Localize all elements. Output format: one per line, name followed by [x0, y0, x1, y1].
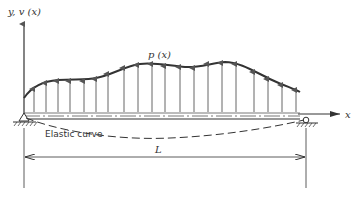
length-label: L [154, 144, 162, 155]
load-label: p (x) [148, 49, 171, 60]
y-axis-label: y, v (x) [7, 6, 41, 17]
beam-diagram: y, v (x) x p (x) [0, 0, 358, 197]
elastic-curve-label: Elastic curve [45, 129, 103, 139]
load-curve [24, 62, 300, 98]
beam [24, 113, 300, 119]
x-axis-label: x [345, 109, 351, 120]
load-arrows [34, 63, 296, 112]
